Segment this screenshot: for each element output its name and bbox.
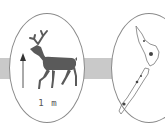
map-panel <box>111 13 165 123</box>
new-zealand-map-icon <box>112 14 165 124</box>
scale-label: 1 m <box>10 98 86 108</box>
deer-panel: 1 m <box>9 13 85 123</box>
